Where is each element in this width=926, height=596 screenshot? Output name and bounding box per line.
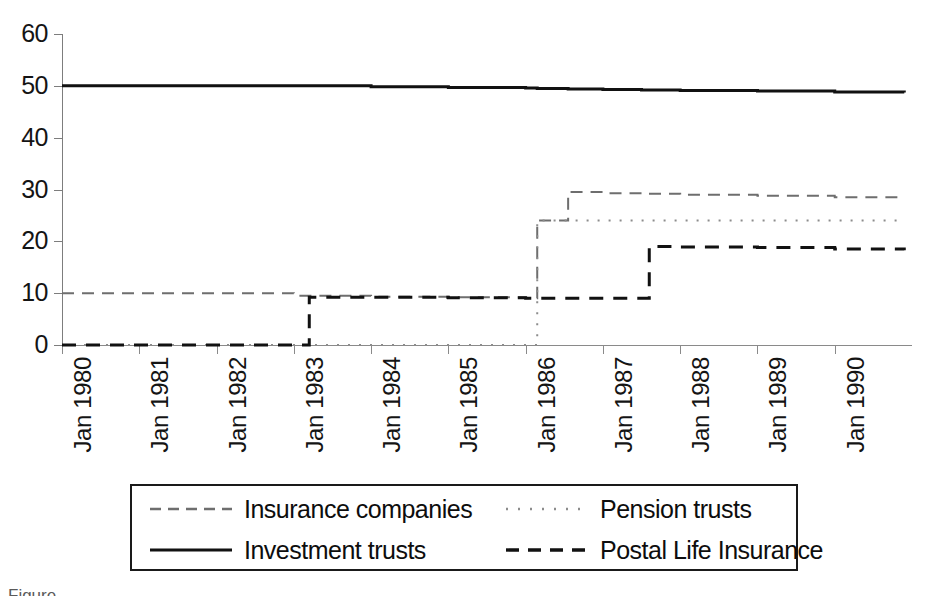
y-tick-label: 30 bbox=[21, 177, 48, 202]
legend-label: Pension trusts bbox=[600, 496, 751, 522]
x-tick-label: Jan 1984 bbox=[380, 357, 404, 453]
x-tick-label: Jan 1989 bbox=[766, 357, 790, 453]
x-tick-mark bbox=[526, 345, 527, 354]
x-tick-mark bbox=[603, 345, 604, 354]
x-tick-mark bbox=[680, 345, 681, 354]
legend-label: Investment trusts bbox=[244, 537, 426, 563]
x-tick-mark bbox=[448, 345, 449, 354]
series-line-pension-trusts bbox=[62, 221, 904, 345]
legend-line-sample-dashed bbox=[148, 499, 234, 519]
x-tick-label: Jan 1980 bbox=[71, 357, 95, 453]
x-tick-label: Jan 1982 bbox=[226, 357, 250, 453]
series-line-postal-life-insurance bbox=[62, 247, 904, 345]
x-tick-mark bbox=[294, 345, 295, 354]
x-axis-line bbox=[62, 345, 912, 346]
legend-entry-insurance-companies: Insurance companies bbox=[148, 487, 472, 530]
legend-label: Postal Life Insurance bbox=[600, 537, 823, 563]
x-tick-label: Jan 1988 bbox=[689, 357, 713, 453]
chart-figure: 0102030405060 Jan 1980Jan 1981Jan 1982Ja… bbox=[0, 0, 926, 596]
y-tick-mark bbox=[54, 190, 63, 191]
x-tick-mark bbox=[835, 345, 836, 354]
legend-line-sample-dotted bbox=[504, 499, 590, 519]
legend-row: Investment trusts Postal Life Insurance bbox=[132, 528, 796, 571]
legend-entry-postal-life-insurance: Postal Life Insurance bbox=[504, 528, 823, 571]
x-tick-mark bbox=[371, 345, 372, 354]
x-tick-label: Jan 1986 bbox=[535, 357, 559, 453]
y-tick-mark bbox=[54, 293, 63, 294]
y-tick-label: 10 bbox=[21, 280, 48, 305]
series-line-investment-trusts bbox=[62, 86, 904, 93]
y-tick-label: 40 bbox=[21, 125, 48, 150]
x-tick-label: Jan 1981 bbox=[148, 357, 172, 453]
y-tick-mark bbox=[54, 34, 63, 35]
figure-caption: Figure bbox=[8, 586, 918, 596]
x-tick-label: Jan 1987 bbox=[612, 357, 636, 453]
legend-label: Insurance companies bbox=[244, 496, 472, 522]
legend-entry-investment-trusts: Investment trusts bbox=[148, 528, 426, 571]
x-tick-label: Jan 1990 bbox=[844, 357, 868, 453]
x-tick-mark bbox=[139, 345, 140, 354]
y-tick-label: 0 bbox=[35, 332, 48, 357]
y-tick-label: 50 bbox=[21, 73, 48, 98]
y-tick-mark bbox=[54, 86, 63, 87]
legend-line-sample-solid bbox=[148, 540, 234, 560]
series-line-insurance-companies bbox=[62, 192, 904, 298]
y-tick-mark bbox=[54, 241, 63, 242]
x-tick-label: Jan 1985 bbox=[457, 357, 481, 453]
x-tick-mark bbox=[757, 345, 758, 354]
legend: Insurance companies Pension trusts Inves… bbox=[130, 484, 798, 571]
y-tick-label: 20 bbox=[21, 228, 48, 253]
y-tick-mark bbox=[54, 138, 63, 139]
legend-row: Insurance companies Pension trusts bbox=[132, 487, 796, 530]
legend-entry-pension-trusts: Pension trusts bbox=[504, 487, 751, 530]
x-tick-mark bbox=[217, 345, 218, 354]
y-tick-label: 60 bbox=[21, 21, 48, 46]
x-tick-label: Jan 1983 bbox=[303, 357, 327, 453]
x-tick-mark bbox=[62, 345, 63, 354]
legend-line-sample-dashed-bold bbox=[504, 540, 590, 560]
